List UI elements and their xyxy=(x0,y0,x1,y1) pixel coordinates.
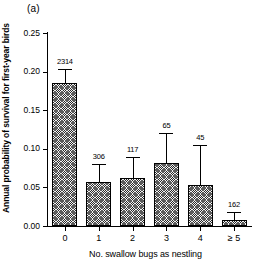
y-tick-mark xyxy=(43,110,47,111)
y-tick-mark xyxy=(43,226,47,227)
bar-count-label: 117 xyxy=(113,146,153,154)
x-tick-mark xyxy=(166,227,167,231)
y-tick-label: 0.25 xyxy=(14,29,40,37)
bar xyxy=(154,163,179,226)
y-tick-mark xyxy=(43,187,47,188)
x-tick-mark xyxy=(200,227,201,231)
error-bar-stem xyxy=(133,157,134,178)
bar-count-label: 306 xyxy=(79,153,119,161)
error-bar-cap xyxy=(159,133,173,134)
y-tick-label: 0.00 xyxy=(14,222,40,230)
error-bar-stem xyxy=(65,69,66,84)
x-tick-mark xyxy=(234,227,235,231)
bar xyxy=(86,182,111,226)
x-tick-mark xyxy=(65,227,66,231)
x-tick-mark xyxy=(99,227,100,231)
x-tick-label: 3 xyxy=(151,233,181,244)
y-tick-label: 0.20 xyxy=(14,67,40,75)
error-bar-stem xyxy=(99,164,100,182)
bar-count-label: 45 xyxy=(180,134,220,142)
x-tick-label: 2 xyxy=(118,233,148,244)
x-tick-mark xyxy=(133,227,134,231)
error-bar-cap xyxy=(126,157,140,158)
error-bar-stem xyxy=(234,212,235,220)
bar-count-label: 162 xyxy=(214,201,254,209)
error-bar-stem xyxy=(200,145,201,185)
error-bar-cap xyxy=(193,145,207,146)
error-bar-cap xyxy=(227,212,241,213)
bar xyxy=(222,220,247,226)
x-axis-line xyxy=(47,226,252,227)
y-tick-mark xyxy=(43,72,47,73)
y-tick-mark xyxy=(43,33,47,34)
bar xyxy=(120,178,145,226)
y-tick-label: 0.10 xyxy=(14,144,40,152)
y-tick-label: 0.05 xyxy=(14,183,40,191)
error-bar-cap xyxy=(58,69,72,70)
error-bar-cap xyxy=(92,164,106,165)
error-bar-stem xyxy=(166,133,167,162)
chart-figure: (a) Annual probability of survival for f… xyxy=(0,0,259,267)
y-tick-label: 0.15 xyxy=(14,106,40,114)
x-tick-label: 4 xyxy=(185,233,215,244)
bar-count-label: 65 xyxy=(146,122,186,130)
bar xyxy=(52,83,77,226)
x-tick-label: ≥ 5 xyxy=(219,233,249,244)
panel-label: (a) xyxy=(27,3,40,15)
y-tick-mark xyxy=(43,149,47,150)
x-tick-label: 1 xyxy=(84,233,114,244)
bar xyxy=(188,185,213,226)
x-tick-label: 0 xyxy=(50,233,80,244)
y-axis-label: Annual probability of survival for first… xyxy=(0,0,12,238)
bar-count-label: 2314 xyxy=(45,58,85,66)
x-axis-label: No. swallow bugs as nestling xyxy=(38,249,253,259)
